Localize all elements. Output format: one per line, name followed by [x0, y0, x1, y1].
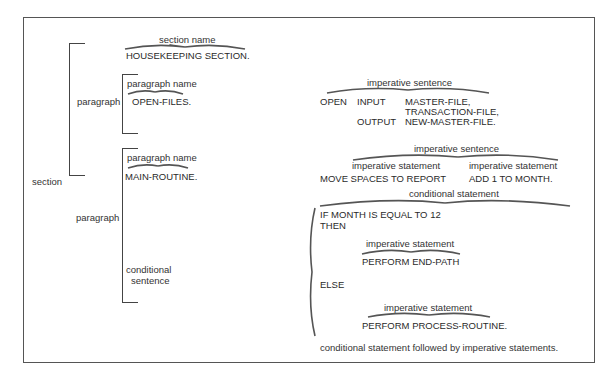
section-label: section [32, 176, 62, 187]
output-keyword: OUTPUT [357, 116, 396, 127]
paragraph2-code: MAIN-ROUTINE. [125, 171, 197, 182]
else-brace-icon [368, 311, 490, 318]
if-line: IF MONTH IS EQUAL TO 12 [320, 209, 441, 220]
paragraph1-code: OPEN-FILES. [132, 96, 191, 107]
else-code: PERFORM PROCESS-ROUTINE. [362, 320, 507, 331]
statement2-code: ADD 1 TO MONTH. [469, 173, 553, 184]
input-keyword: INPUT [357, 96, 386, 107]
paragraph1-brace-icon [128, 89, 183, 95]
statement2-annotation: imperative statement [469, 160, 557, 171]
else-line: ELSE [320, 279, 344, 290]
conditional-caption: conditional statement followed by impera… [320, 342, 558, 353]
paragraph1-annotation: paragraph name [127, 78, 197, 89]
open-keyword: OPEN [320, 96, 347, 107]
then-line: THEN [320, 220, 346, 231]
conditional-brace-icon [320, 197, 570, 207]
statement1-code: MOVE SPACES TO REPORT [320, 173, 446, 184]
paragraph1-label: paragraph [77, 96, 120, 107]
conditional-vertical-brace-icon [308, 208, 316, 336]
section-name-code: HOUSEKEEPING SECTION. [126, 50, 250, 61]
paragraph2-brace-icon [128, 163, 188, 169]
paragraph2-annotation: paragraph name [127, 152, 197, 163]
conditional-sentence-label-1: conditional [126, 264, 171, 275]
then-brace-icon [362, 248, 460, 255]
then-code: PERFORM END-PATH [362, 256, 459, 267]
new-master-file: NEW-MASTER-FILE. [405, 116, 496, 127]
paragraph2-label: paragraph [76, 212, 119, 223]
conditional-sentence-label-2: sentence [131, 275, 170, 286]
p1-sentence-brace-icon [327, 86, 489, 94]
statement1-annotation: imperative statement [352, 160, 440, 171]
